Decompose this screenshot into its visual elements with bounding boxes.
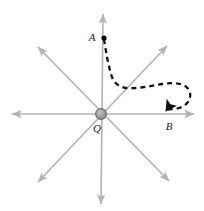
point-b-label: B — [166, 120, 173, 132]
point-a-label: A — [88, 31, 96, 43]
origin-label: Q — [93, 122, 101, 134]
origin-point-marker — [96, 109, 107, 120]
dashed-trajectory-path — [104, 39, 190, 111]
point-a-marker — [101, 35, 106, 40]
coordinate-figure: Q A B — [0, 0, 204, 211]
figure-canvas: Q A B — [0, 0, 204, 211]
